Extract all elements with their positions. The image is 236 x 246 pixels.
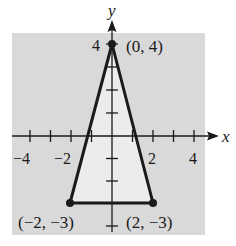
vertex-label-top: (0, 4) [126,37,163,56]
vertex-point-bottom-left [66,199,74,207]
x-axis-label: x [221,127,230,146]
x-tick-label: −4 [13,150,30,167]
x-tick-label: 2 [148,150,156,167]
vertex-label-bottom-right: (2, −3) [126,213,172,232]
coordinate-plane-figure: y x −4 −2 2 4 4 (0, 4) (−2, −3) (2, −3) [0,0,236,246]
vertex-point-bottom-right [149,199,157,207]
x-tick-label: −2 [54,150,71,167]
x-tick-label: 4 [189,150,197,167]
vertex-label-bottom-left: (−2, −3) [18,213,74,232]
vertex-point-top [108,40,116,48]
y-tick-label: 4 [92,37,100,54]
y-axis-label: y [106,1,116,20]
